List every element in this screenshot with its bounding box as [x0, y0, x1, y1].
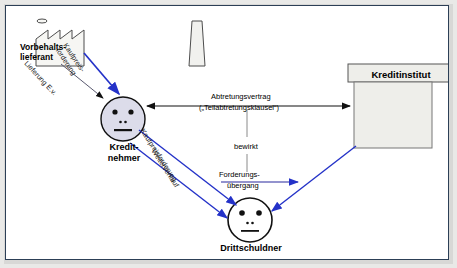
edge-label-abtretungsvertrag-line1: Abtretungsvertrag	[211, 92, 271, 101]
diagram-canvas: Vorbehalts- lieferant Kredit- nehmer Kre…	[6, 6, 448, 259]
edge-label-bewirkt: bewirkt	[234, 142, 258, 151]
kreditnehmer-line1: Kredit-	[94, 142, 154, 153]
edge-kaufpreisforderung-lieferant	[84, 53, 119, 94]
diagram-vector-layer	[6, 6, 448, 259]
edge-label-forderungsuebergang-line2: übergang	[227, 181, 259, 190]
node-label-kreditinstitut: Kreditinstitut	[353, 69, 448, 80]
node-kreditnehmer-shape	[101, 97, 145, 141]
edge-label-abtretungsvertrag-line2: („Teilabtretungsklausel“)	[199, 103, 279, 112]
edge-kreditinstitut-drittschuldner	[272, 146, 356, 211]
kreditnehmer-line2: nehmer	[94, 153, 154, 164]
edge-label-forderungsuebergang-line1: Forderungs-	[219, 170, 260, 179]
diagram-page: Vorbehalts- lieferant Kredit- nehmer Kre…	[0, 0, 457, 268]
node-label-kreditnehmer: Kredit- nehmer	[94, 142, 154, 164]
node-label-drittschuldner: Drittschuldner	[191, 243, 311, 253]
